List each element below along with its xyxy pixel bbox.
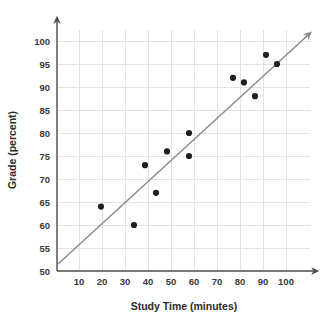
y-tick-label: 85 [39, 105, 50, 116]
data-point [274, 61, 280, 67]
y-tick-label: 60 [39, 220, 50, 231]
y-tick-label: 80 [39, 128, 50, 139]
y-axis-tick-labels: 100 95 90 85 80 75 70 65 60 55 50 [34, 36, 51, 277]
data-point [164, 148, 170, 154]
x-tick-label: 10 [74, 276, 85, 287]
x-tick-label: 40 [143, 276, 154, 287]
x-tick-label: 50 [166, 276, 177, 287]
y-tick-label: 90 [39, 82, 50, 93]
y-tick-label: 95 [39, 59, 50, 70]
x-tick-label: 30 [120, 276, 131, 287]
x-tick-label: 20 [97, 276, 108, 287]
data-point [98, 204, 104, 210]
data-point [153, 190, 159, 196]
plot-canvas: 100 95 90 85 80 75 70 65 60 55 50 10 20 … [0, 0, 325, 323]
x-axis-title: Study Time (minutes) [131, 300, 238, 312]
x-axis-tick-labels: 10 20 30 40 50 60 70 80 90 100 [74, 276, 294, 287]
data-point [131, 222, 137, 228]
trend-line [58, 36, 307, 264]
data-point [252, 93, 258, 99]
y-tick-label: 100 [34, 36, 50, 47]
data-point [186, 130, 192, 136]
x-tick-label: 90 [258, 276, 269, 287]
x-tick-label: 100 [278, 276, 294, 287]
y-tick-label: 70 [39, 174, 50, 185]
x-tick-label: 60 [189, 276, 200, 287]
y-tick-label: 75 [39, 151, 50, 162]
x-tick-label: 80 [235, 276, 246, 287]
y-tick-label: 55 [39, 243, 50, 254]
data-point [230, 75, 236, 81]
data-point [142, 162, 148, 168]
gridlines-horizontal [57, 41, 310, 248]
data-point [241, 79, 247, 85]
y-axis-title: Grade (percent) [6, 111, 18, 189]
y-tick-label: 65 [39, 197, 50, 208]
x-tick-label: 70 [212, 276, 223, 287]
data-point [263, 52, 269, 58]
data-point [186, 153, 192, 159]
y-tick-label: 50 [39, 266, 50, 277]
scatter-plot-figure: 100 95 90 85 80 75 70 65 60 55 50 10 20 … [0, 0, 325, 323]
